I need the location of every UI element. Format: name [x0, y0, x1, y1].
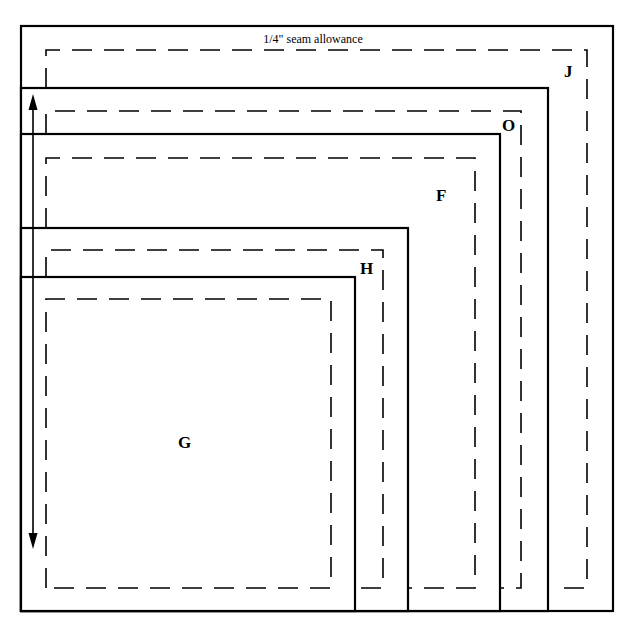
- seam-allowance-note: 1/4" seam allowance: [263, 32, 363, 46]
- piece-label-f: F: [436, 186, 446, 205]
- piece-label-o: O: [502, 116, 515, 135]
- piece-g: G: [21, 277, 355, 611]
- piece-label-h: H: [360, 259, 373, 278]
- quilt-template-diagram: J O F H G 1/4" seam allowance: [0, 0, 627, 625]
- piece-label-j: J: [564, 62, 573, 81]
- piece-label-g: G: [178, 433, 191, 452]
